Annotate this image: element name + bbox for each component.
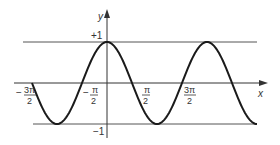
y-max-label: +1 xyxy=(91,30,103,41)
tick-label-neg-pi-2: − π 2 xyxy=(83,85,98,106)
tick-label-3pi-2: 3π 2 xyxy=(184,85,196,106)
svg-text:−: − xyxy=(16,87,22,98)
svg-text:−: − xyxy=(83,87,89,98)
x-axis-arrow-icon xyxy=(259,80,268,86)
tick-label-neg-3pi-2: − 3π 2 xyxy=(16,85,36,106)
x-axis-label: x xyxy=(257,88,264,99)
svg-text:2: 2 xyxy=(143,96,148,106)
y-axis-label: y xyxy=(97,11,104,22)
svg-text:π: π xyxy=(144,85,150,95)
svg-text:2: 2 xyxy=(91,96,96,106)
svg-text:2: 2 xyxy=(27,96,32,106)
svg-text:3π: 3π xyxy=(184,85,195,95)
cosine-graph: y x +1 −1 − 3π 2 − π 2 π 2 3π 2 xyxy=(0,0,280,145)
tick-label-pi-2: π 2 xyxy=(142,85,150,106)
svg-text:3π: 3π xyxy=(24,85,35,95)
svg-text:π: π xyxy=(92,85,98,95)
y-axis-arrow-icon xyxy=(104,9,110,18)
y-min-label: −1 xyxy=(93,126,105,137)
svg-text:2: 2 xyxy=(187,96,192,106)
